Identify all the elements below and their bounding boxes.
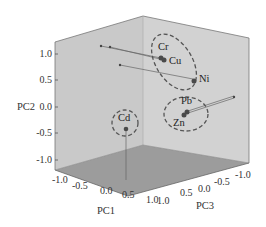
pc2-tick-2: 0.5	[40, 74, 53, 85]
pc2-tick-3: 0.0	[40, 101, 53, 112]
pc3-tick-5: -1.0	[235, 169, 251, 180]
pc3-tick-1: 1.0	[157, 195, 170, 206]
point-cu	[162, 58, 167, 63]
pc1-axis-label: PC1	[97, 205, 115, 216]
pc1-tick-3: 0.0	[100, 185, 113, 196]
left-wall	[55, 16, 143, 170]
pc3-tick-2: 0.5	[180, 187, 193, 198]
label-cr: Cr	[158, 41, 169, 52]
label-ni: Ni	[199, 73, 210, 84]
pc3-axis-label: PC3	[196, 200, 214, 211]
pca-3d-plot: 1.0 0.5 0.0 -0.5 -1.0 PC2 -1.0 -0.5 0.0 …	[0, 0, 266, 227]
pc1-tick-4: 0.5	[122, 189, 135, 200]
pc2-tick-5: -1.0	[36, 154, 52, 165]
pc2-tick-1: 1.0	[40, 48, 53, 59]
pc3-tick-3: 0.0	[198, 183, 211, 194]
label-cd: Cd	[118, 112, 131, 123]
right-wall	[143, 16, 249, 163]
label-zn: Zn	[173, 117, 185, 128]
pc2-tick-4: -0.5	[36, 127, 52, 138]
pc1-tick-2: -0.5	[72, 180, 88, 191]
label-pb: Pb	[181, 95, 192, 106]
point-cd	[124, 127, 129, 132]
pc3-tick-4: -0.5	[214, 176, 230, 187]
pc1-tick-1: -1.0	[52, 174, 68, 185]
point-ni	[192, 79, 197, 84]
pc2-axis-label: PC2	[17, 101, 35, 112]
label-cu: Cu	[169, 55, 182, 66]
